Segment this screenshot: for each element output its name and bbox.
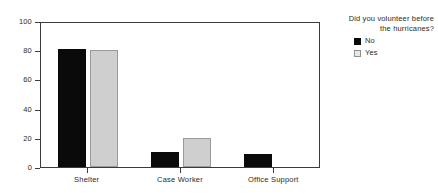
bar-case-worker-yes (183, 138, 211, 167)
legend-swatch-icon (354, 38, 361, 45)
x-axis-tick (87, 168, 88, 173)
legend-title-line-1: Did you volunteer before (330, 14, 434, 24)
bar-office-support-no (244, 154, 272, 167)
x-axis-tick (180, 168, 181, 173)
legend-title: Did you volunteer before the hurricanes? (330, 14, 434, 34)
legend-title-line-2: the hurricanes? (330, 24, 434, 34)
y-axis-tick: 0 (0, 168, 40, 169)
plot-area (40, 22, 320, 168)
y-axis-tick: 60 (0, 80, 40, 81)
x-tick-label: Shelter (74, 175, 99, 185)
legend-item-no: No (330, 36, 434, 46)
x-tick-label: Office Support (248, 175, 299, 185)
y-axis-tick: 20 (0, 139, 40, 140)
y-tick-label: 80 (23, 45, 32, 56)
y-axis-tick: 100 (0, 22, 40, 23)
bar-shelter-no (58, 49, 86, 167)
x-tick-label: Case Worker (157, 175, 203, 185)
y-tick-mark (35, 168, 40, 169)
bar-chart-figure: 020406080100 ShelterCase WorkerOffice Su… (0, 0, 438, 195)
x-axis-tick (273, 168, 274, 173)
y-tick-label: 40 (23, 104, 32, 115)
bar-shelter-yes (90, 50, 118, 167)
y-axis-tick: 40 (0, 110, 40, 111)
legend-entries: NoYes (330, 36, 434, 58)
y-tick-label: 20 (23, 133, 32, 144)
legend-item-yes: Yes (330, 48, 434, 58)
legend-label: Yes (365, 48, 378, 58)
chart-legend: Did you volunteer before the hurricanes?… (330, 14, 434, 58)
y-tick-label: 0 (28, 162, 32, 173)
legend-label: No (365, 36, 375, 46)
y-tick-label: 100 (19, 16, 32, 27)
y-axis-tick: 80 (0, 51, 40, 52)
y-tick-label: 60 (23, 74, 32, 85)
bar-case-worker-no (151, 152, 179, 167)
legend-swatch-icon (354, 50, 361, 57)
